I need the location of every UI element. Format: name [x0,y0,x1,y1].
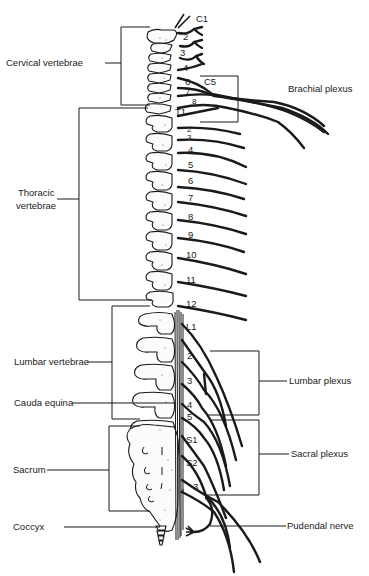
thoracic-vertebrae-shapes [146,115,173,307]
label-cauda-equina: Cauda equina [14,397,74,408]
num-c4: 4 [183,62,188,73]
label-brachial-plexus: Brachial plexus [288,83,353,94]
label-sacrum: Sacrum [13,464,46,475]
sacrum-shape [127,425,179,532]
num-t3: 3 [187,133,192,142]
num-c8: 8 [192,97,197,106]
num-t4: 4 [188,144,193,155]
spine-diagram: Cervical vertebrae Thoracic vertebrae Lu… [0,0,369,576]
label-coccyx: Coccyx [13,521,44,532]
label-sacral-plexus: Sacral plexus [291,448,348,459]
num-l5: 5 [187,411,192,422]
num-t5: 5 [188,159,193,170]
num-c2: 2 [183,31,188,42]
num-c5: C5 [204,76,216,87]
cervical-vertebrae-shapes [145,29,176,114]
label-lumbar-plexus: Lumbar plexus [289,375,352,386]
thoracic-nerves [178,128,246,320]
lumbosacral-nerves [182,324,260,572]
num-s2: S2 [186,457,198,468]
num-t11: 11 [186,274,196,285]
num-t12: 12 [186,298,197,309]
num-s4: 4 [180,487,185,496]
label-thoracic-vertebrae-2: vertebrae [16,200,56,211]
num-l3: 3 [187,375,192,386]
cauda-equina-strands [175,310,183,540]
sacral-plexus-bracket [205,420,289,495]
num-c7: 7 [185,86,190,97]
num-t8: 8 [188,211,193,222]
num-l2: 2 [187,350,192,361]
cervical-bracket [105,27,150,105]
num-s3: 3 [193,481,198,492]
num-s1: S1 [186,434,198,445]
label-lumbar-vertebrae: Lumbar vertebrae [14,356,89,367]
num-t9: 9 [188,229,193,240]
thoracic-bracket [57,108,152,300]
label-pudendal-nerve: Pudendal nerve [287,520,354,531]
num-c3: 3 [180,47,185,58]
num-c1: C1 [196,13,208,24]
num-t1: T1 [175,106,186,117]
num-l4: 4 [187,399,192,410]
num-t7: 7 [188,192,193,203]
num-t6: 6 [188,175,193,186]
coccyx-shape [156,526,166,545]
num-l1: L1 [186,321,197,332]
num-t10: 10 [186,249,197,260]
label-cervical-vertebrae: Cervical vertebrae [6,57,83,68]
label-thoracic-vertebrae-1: Thoracic [18,187,55,198]
